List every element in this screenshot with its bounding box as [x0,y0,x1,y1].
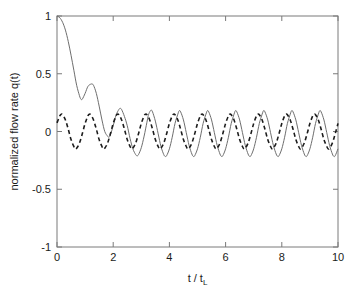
y-tick-label: 0 [45,126,51,138]
x-tick-label: 6 [223,251,229,263]
y-tick-label: 1 [45,10,51,22]
y-axis-title: normalized flow rate q(t) [8,73,20,191]
x-tick-label: 2 [110,251,116,263]
curve-transient [57,16,338,157]
figure-container: 0246810-1-0.500.51normalized flow rate q… [0,0,359,292]
x-axis-title-subscript: L [203,278,208,287]
y-tick-label: -0.5 [32,183,51,195]
x-axis-title-main: t / t [188,272,203,284]
y-tick-label: -1 [41,241,51,253]
x-tick-label: 10 [332,251,344,263]
x-tick-label: 8 [279,251,285,263]
chart-plot: 0246810-1-0.500.51normalized flow rate q… [0,0,359,292]
axis-labels: 0246810-1-0.500.51normalized flow rate q… [8,10,344,287]
axes [57,16,338,247]
data-curves [57,16,338,157]
y-tick-label: 0.5 [36,68,51,80]
x-tick-label: 4 [166,251,172,263]
x-axis-title: t / tL [188,272,208,287]
axes-box [57,16,338,247]
x-tick-label: 0 [54,251,60,263]
